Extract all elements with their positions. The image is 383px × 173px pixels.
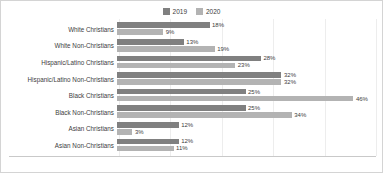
bar-value-label: 23% <box>238 62 250 68</box>
bar-group-2019: 18% <box>117 22 224 28</box>
bar-value-label: 46% <box>356 96 368 102</box>
chart-row: White Non-Christians13%19% <box>1 38 383 55</box>
chart-row: Black Non-Christians25%34% <box>1 104 383 121</box>
bar-group-2020: 3% <box>117 129 144 135</box>
bar-group-2019: 25% <box>117 105 260 111</box>
bar-value-label: 34% <box>294 112 306 118</box>
bar-2020[interactable] <box>117 79 281 85</box>
category-label: Hispanic/Latino Non-Christians <box>1 76 117 83</box>
bar-value-label: 28% <box>263 55 275 61</box>
chart-row: Hispanic/Latino Non-Christians32%32% <box>1 71 383 88</box>
bar-group-2020: 34% <box>117 112 306 118</box>
bar-2019[interactable] <box>117 89 246 95</box>
bar-value-label: 12% <box>181 122 193 128</box>
bar-value-label: 19% <box>217 46 229 52</box>
chart-rows: White Christians18%9%White Non-Christian… <box>1 21 383 154</box>
chart-container: 20192020 White Christians18%9%White Non-… <box>0 0 383 173</box>
bar-2019[interactable] <box>117 105 246 111</box>
bar-2019[interactable] <box>117 56 261 62</box>
legend-item-2020[interactable]: 2020 <box>196 8 220 15</box>
bar-2020[interactable] <box>117 146 174 152</box>
axis-baseline <box>9 156 376 157</box>
bars-wrapper: 28%23% <box>117 54 383 71</box>
bars-wrapper: 12%11% <box>117 137 383 154</box>
category-label: Black Non-Christians <box>1 109 117 116</box>
bar-value-label: 32% <box>284 72 296 78</box>
bars-wrapper: 25%34% <box>117 104 383 121</box>
bar-2020[interactable] <box>117 29 163 35</box>
category-label: Hispanic/Latino Christians <box>1 59 117 66</box>
bar-group-2020: 46% <box>117 96 368 102</box>
bar-value-label: 11% <box>176 145 188 151</box>
bar-group-2019: 28% <box>117 56 275 62</box>
plot-area: White Christians18%9%White Non-Christian… <box>1 19 383 163</box>
bar-value-label: 18% <box>212 22 224 28</box>
bar-2020[interactable] <box>117 96 353 102</box>
bar-2019[interactable] <box>117 139 179 145</box>
bar-group-2020: 11% <box>117 146 188 152</box>
bars-wrapper: 12%3% <box>117 121 383 138</box>
bar-value-label: 9% <box>166 29 175 35</box>
category-label: Asian Non-Christians <box>1 142 117 149</box>
legend-item-2019[interactable]: 2019 <box>163 8 187 15</box>
bar-group-2020: 23% <box>117 63 250 69</box>
bar-2019[interactable] <box>117 39 184 45</box>
category-label: White Christians <box>1 26 117 33</box>
category-label: Asian Christians <box>1 125 117 132</box>
bar-2019[interactable] <box>117 22 210 28</box>
chart-row: Black Christians25%46% <box>1 87 383 104</box>
category-label: Black Christians <box>1 92 117 99</box>
bar-value-label: 3% <box>135 129 144 135</box>
bar-group-2019: 25% <box>117 89 260 95</box>
bar-group-2020: 19% <box>117 46 229 52</box>
chart-row: Asian Christians12%3% <box>1 121 383 138</box>
bar-2020[interactable] <box>117 112 292 118</box>
bar-group-2019: 12% <box>117 122 193 128</box>
chart-legend: 20192020 <box>1 5 382 17</box>
bars-wrapper: 32%32% <box>117 71 383 88</box>
bar-group-2019: 13% <box>117 39 198 45</box>
bar-group-2020: 9% <box>117 29 174 35</box>
bar-2020[interactable] <box>117 46 215 52</box>
bar-value-label: 32% <box>284 79 296 85</box>
bar-2019[interactable] <box>117 72 281 78</box>
bar-group-2019: 12% <box>117 139 193 145</box>
chart-row: White Christians18%9% <box>1 21 383 38</box>
bar-2020[interactable] <box>117 129 132 135</box>
legend-label: 2019 <box>173 8 187 15</box>
bars-wrapper: 18%9% <box>117 21 383 38</box>
bar-value-label: 13% <box>186 39 198 45</box>
bar-group-2019: 32% <box>117 72 296 78</box>
bar-2019[interactable] <box>117 122 179 128</box>
bars-wrapper: 13%19% <box>117 38 383 55</box>
chart-row: Asian Non-Christians12%11% <box>1 137 383 154</box>
bar-2020[interactable] <box>117 63 235 69</box>
legend-swatch-icon <box>163 8 170 15</box>
category-label: White Non-Christians <box>1 42 117 49</box>
bars-wrapper: 25%46% <box>117 87 383 104</box>
chart-row: Hispanic/Latino Christians28%23% <box>1 54 383 71</box>
bar-value-label: 25% <box>248 89 260 95</box>
legend-label: 2020 <box>206 8 220 15</box>
bar-value-label: 25% <box>248 105 260 111</box>
bar-group-2020: 32% <box>117 79 296 85</box>
bar-value-label: 12% <box>181 138 193 144</box>
legend-swatch-icon <box>196 8 203 15</box>
